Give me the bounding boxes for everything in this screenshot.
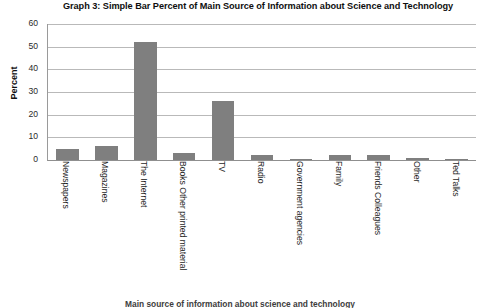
y-axis-title: Percent: [9, 53, 19, 113]
footer-caption: Main source of information about science…: [0, 299, 480, 308]
x-axis-label-slot: Radio: [242, 161, 281, 291]
x-axis-tick-label: Books Other printed material: [179, 161, 188, 270]
x-axis-tick-label: Newspapers: [62, 161, 71, 209]
x-axis-tick-label: Other: [412, 161, 421, 183]
x-axis-label-slot: Ted Talks: [436, 161, 475, 291]
x-axis-tick-label: TV: [218, 161, 227, 172]
x-axis-tick-label: Family: [335, 161, 344, 186]
bar: [445, 159, 468, 160]
x-axis-tick-label: Ted Talks: [451, 161, 460, 197]
x-axis-tick-label: The Internet: [140, 161, 149, 207]
bar: [56, 149, 79, 160]
x-axis-label-slot: Other: [397, 161, 436, 291]
x-axis-tick-labels: NewspapersMagazinesThe InternetBooks Oth…: [47, 161, 475, 291]
bar: [329, 155, 352, 160]
x-axis-label-slot: TV: [203, 161, 242, 291]
bar: [290, 159, 313, 160]
chart-title: Graph 3: Simple Bar Percent of Main Sour…: [36, 1, 480, 11]
x-axis-label-slot: Books Other printed material: [164, 161, 203, 291]
x-axis-label-slot: Newspapers: [47, 161, 86, 291]
x-axis-tick-label: Radio: [257, 161, 266, 183]
y-axis-tick-label: 50: [0, 42, 38, 51]
bar: [173, 153, 196, 160]
x-axis-label-slot: Magazines: [86, 161, 125, 291]
bar: [406, 158, 429, 160]
bar: [212, 101, 235, 160]
y-axis-tick-label: 0: [0, 155, 38, 164]
bars-layer: [48, 24, 476, 160]
y-axis-tick-label: 20: [0, 110, 38, 119]
plot-area: 0102030405060: [47, 24, 476, 161]
x-axis-label-slot: Family: [319, 161, 358, 291]
y-axis-tick-label: 40: [0, 64, 38, 73]
x-axis-tick-label: Magazines: [101, 161, 110, 203]
x-axis-label-slot: The Internet: [125, 161, 164, 291]
x-axis-tick-label: Friends Colleagues: [373, 161, 382, 235]
bar: [367, 155, 390, 160]
bar: [134, 42, 157, 160]
bar-chart: Graph 3: Simple Bar Percent of Main Sour…: [0, 0, 480, 308]
x-axis-tick-label: Government agencies: [296, 161, 305, 245]
y-axis-tick-label: 30: [0, 87, 38, 96]
x-axis-label-slot: Government agencies: [280, 161, 319, 291]
x-axis-label-slot: Friends Colleagues: [358, 161, 397, 291]
bar: [251, 155, 274, 160]
y-axis-tick-label: 10: [0, 132, 38, 141]
bar: [95, 146, 118, 160]
y-axis-tick-label: 60: [0, 19, 38, 28]
